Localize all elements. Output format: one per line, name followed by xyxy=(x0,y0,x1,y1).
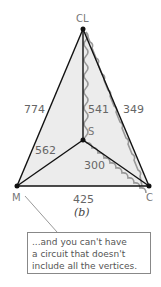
vertex-c xyxy=(147,184,152,189)
figure-caption: (b) xyxy=(74,206,90,219)
weight-cl-s: 541 xyxy=(88,104,109,115)
callout-pointer xyxy=(25,196,57,232)
weight-cl-m: 774 xyxy=(24,104,45,115)
weight-m-s: 562 xyxy=(35,145,56,156)
callout-line-2: a circuit that doesn't xyxy=(32,248,146,260)
callout-line-3: include all the vertices. xyxy=(32,260,146,272)
callout-box: ...and you can't have a circuit that doe… xyxy=(27,232,151,274)
weight-m-c: 425 xyxy=(73,194,94,205)
weight-s-c: 300 xyxy=(84,160,105,171)
vertex-label-cl: CL xyxy=(76,14,89,24)
weight-cl-c: 349 xyxy=(123,104,144,115)
callout-line-1: ...and you can't have xyxy=(32,236,146,248)
vertex-label-c: C xyxy=(146,193,153,203)
vertex-label-m: M xyxy=(12,193,21,203)
vertex-cl xyxy=(81,27,86,32)
vertex-s xyxy=(81,138,86,143)
vertex-label-s: S xyxy=(88,127,94,137)
vertex-m xyxy=(15,184,20,189)
